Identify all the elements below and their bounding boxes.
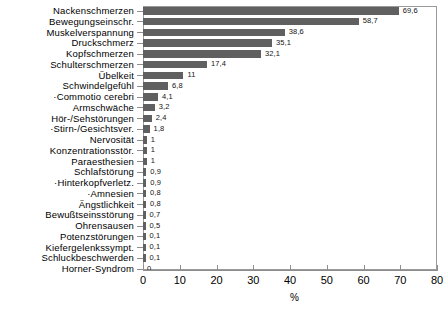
- bar-value-label: 0,1: [150, 242, 161, 252]
- category-label: Schluckbeschwerden: [0, 252, 134, 263]
- x-axis-tick-label: 10: [160, 274, 200, 286]
- bar: [143, 61, 207, 69]
- bar: [143, 158, 147, 166]
- x-axis-tick-label: 60: [344, 274, 384, 286]
- bar: [143, 201, 146, 209]
- category-label: Ohrensausen: [0, 220, 134, 231]
- category-label: Schwindelgefühl: [0, 80, 134, 91]
- bar-value-label: 32,1: [265, 49, 280, 59]
- bar: [143, 233, 146, 241]
- bar-value-label: 1: [151, 135, 155, 145]
- category-label: ·Hinterkopfverletz.: [0, 177, 134, 188]
- bar-value-label: 4,1: [162, 92, 173, 102]
- category-label: ·Commotio cerebri: [0, 91, 134, 102]
- bar-value-label: 1: [151, 145, 155, 155]
- bar-rows: Nackenschmerzen69,6Bewegungseinschr.58,7…: [0, 6, 447, 264]
- category-label: Nackenschmerzen: [0, 5, 134, 16]
- x-axis-tick-label: 30: [233, 274, 273, 286]
- bar: [143, 29, 285, 37]
- bar-value-label: 35,1: [276, 38, 291, 48]
- bar: [143, 168, 146, 176]
- bar: [143, 254, 146, 262]
- bar-value-label: 6,8: [172, 81, 183, 91]
- category-label: ·Amnesien: [0, 188, 134, 199]
- x-axis-tick: [364, 265, 365, 271]
- category-label: Bewußtseinsstörung: [0, 209, 134, 220]
- bar: [143, 7, 399, 15]
- bar-value-label: 0,1: [150, 253, 161, 263]
- bar: [143, 50, 261, 58]
- bar-value-label: 0,8: [150, 199, 161, 209]
- x-axis-title: %: [290, 292, 299, 303]
- bar-value-label: 0,7: [150, 210, 161, 220]
- bar-value-label: 17,4: [211, 59, 226, 69]
- x-axis-tick: [327, 265, 328, 271]
- bar: [143, 82, 168, 90]
- bar: [143, 222, 146, 230]
- category-label: Muskelverspannung: [0, 27, 134, 38]
- bar: [143, 115, 152, 123]
- bar: [143, 244, 146, 252]
- x-axis-tick: [143, 265, 144, 271]
- category-label: Konzentrationsstör.: [0, 145, 134, 156]
- bar-value-label: 0,8: [150, 188, 161, 198]
- category-label: Kiefergelenkssympt.: [0, 242, 134, 253]
- bar-value-label: 0,5: [150, 221, 161, 231]
- bar-chart: Nackenschmerzen69,6Bewegungseinschr.58,7…: [0, 0, 447, 313]
- category-label: Potenzstörungen: [0, 231, 134, 242]
- category-label: Druckschmerz: [0, 37, 134, 48]
- category-label: Paraesthesien: [0, 156, 134, 167]
- bar-value-label: 38,6: [289, 27, 304, 37]
- category-label: Ängstlichkeit: [0, 199, 134, 210]
- bar-value-label: 0: [147, 264, 151, 274]
- category-label: Schlafstörung: [0, 166, 134, 177]
- bar: [143, 18, 359, 26]
- x-axis-tick: [217, 265, 218, 271]
- bar-value-label: 3,2: [159, 102, 170, 112]
- bar-value-label: 0,9: [150, 167, 161, 177]
- bar-value-label: 11: [187, 70, 195, 80]
- bar: [143, 179, 146, 187]
- x-axis-tick-label: 20: [197, 274, 237, 286]
- bar: [143, 39, 272, 47]
- bar: [143, 136, 147, 144]
- bar: [143, 211, 146, 219]
- category-label: Nervosität: [0, 134, 134, 145]
- category-label: Horner-Syndrom: [0, 263, 134, 274]
- bar: [143, 190, 146, 198]
- bar-value-label: 58,7: [363, 16, 378, 26]
- category-label: Übelkeit: [0, 70, 134, 81]
- x-axis-tick: [180, 265, 181, 271]
- bar-value-label: 69,6: [403, 6, 418, 16]
- category-label: ·Stirn-/Gesichtsver.: [0, 123, 134, 134]
- bar: [143, 125, 150, 133]
- category-label: Bewegungseinschr.: [0, 16, 134, 27]
- category-label: Kopfschmerzen: [0, 48, 134, 59]
- category-label: Armschwäche: [0, 102, 134, 113]
- x-axis-tick-label: 0: [123, 274, 163, 286]
- bar-value-label: 1: [151, 156, 155, 166]
- x-axis-tick: [290, 265, 291, 271]
- category-label: Hör-/Sehstörungen: [0, 113, 134, 124]
- bar: [143, 147, 147, 155]
- bar: [143, 72, 183, 80]
- x-axis-tick: [437, 265, 438, 271]
- category-label: Schulterschmerzen: [0, 59, 134, 70]
- x-axis-tick-label: 50: [307, 274, 347, 286]
- bar-value-label: 0,1: [150, 231, 161, 241]
- bar: [143, 104, 155, 112]
- x-axis-tick-label: 40: [270, 274, 310, 286]
- bar-value-label: 0,9: [150, 178, 161, 188]
- bar-value-label: 2,4: [156, 113, 167, 123]
- bar: [143, 93, 158, 101]
- x-axis-tick-label: 80: [417, 274, 447, 286]
- x-axis-tick: [400, 265, 401, 271]
- x-axis-tick: [253, 265, 254, 271]
- bar-value-label: 1,8: [154, 124, 165, 134]
- x-axis-tick-label: 70: [380, 274, 420, 286]
